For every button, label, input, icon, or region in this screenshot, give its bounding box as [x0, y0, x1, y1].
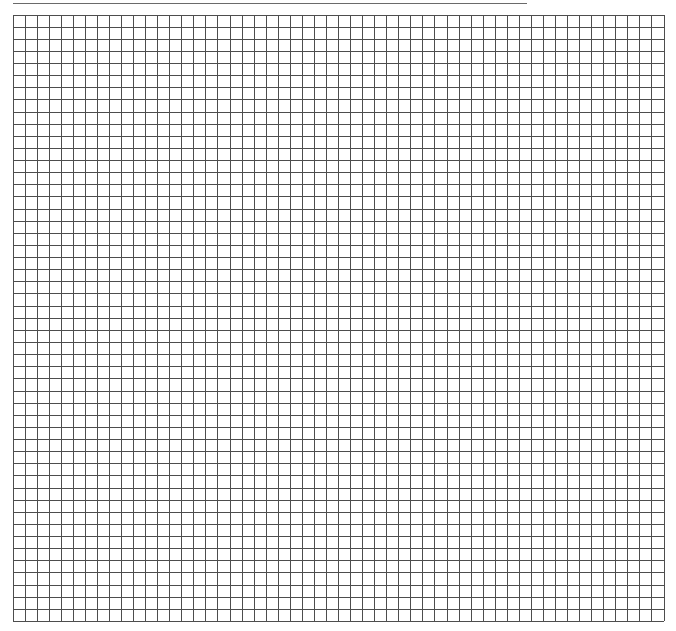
- top-rule-line: [13, 3, 527, 4]
- grid-lines: [12, 14, 665, 623]
- graph-paper-grid: [12, 14, 665, 623]
- grid-path: [13, 15, 665, 622]
